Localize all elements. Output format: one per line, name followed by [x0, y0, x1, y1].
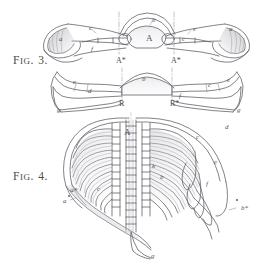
fig4-caption-rest: IG [20, 172, 31, 182]
fig3-caption-number: 3. [38, 54, 48, 66]
fig3-label-a_right: a [229, 26, 233, 33]
fig4-label-g_bottom4: g [151, 253, 155, 260]
fig3b-right-lower-sweep [172, 100, 234, 110]
fig4-caption-lead: F [13, 170, 20, 182]
fig3b-label-Rstar_l: R [119, 100, 124, 108]
fig3-label-b_top: b [152, 17, 156, 24]
fig3b-label-e_left2: e [73, 79, 76, 86]
fig3-label-A_center: A [146, 34, 153, 43]
fig4-label-e_right4: e [214, 159, 217, 166]
fig4-label-astar4: a* [70, 187, 77, 194]
fig3-lower-arch-set [51, 68, 243, 112]
fig4-right-ventral-sweep [216, 182, 228, 216]
fig3-label-e_right: e [193, 26, 196, 33]
fig3-left-process-upper [68, 24, 127, 36]
fig3-label-c_left: c [89, 25, 92, 32]
fig4-caption: FIG. 4. [13, 166, 48, 184]
fig3-label-c_right: c [182, 36, 185, 43]
fig4-label-c_right4: c [196, 134, 199, 141]
fig4-label-a_left4: a [63, 198, 67, 205]
fig4-astar-dot [68, 195, 70, 197]
fig3b-label-e_right2: e [227, 77, 230, 84]
fig4-thorax [64, 112, 239, 259]
fig3-label-Astar_r: A* [171, 57, 181, 65]
fig4-caption-dot: . [30, 170, 33, 182]
fig4-right-process-ladder [142, 123, 150, 216]
fig3-label-f_left: f [91, 46, 93, 53]
fig4-label-bstar4: b* [241, 205, 248, 212]
fig3b-left-ticks [74, 84, 122, 96]
fig3b-label-g_right2: g [237, 107, 241, 114]
fig4-left-process-ladder [112, 123, 120, 216]
fig3-left-process-edge [74, 48, 126, 56]
fig4-left-fan-shade [72, 129, 112, 203]
fig4-label-c_left4: c [97, 186, 100, 193]
fig3b-label-g_left2: g [57, 107, 61, 114]
fig3b-label-Rstar_r: R* [170, 100, 179, 108]
fig3b-label-c_right2: c [208, 82, 211, 89]
fig3b-label-f_right2: f [179, 93, 181, 100]
fig3b-left-lower-sweep [60, 100, 122, 110]
fig4-label-A_top4: A [124, 128, 131, 137]
fig3b-left-line-1 [57, 72, 122, 86]
engraving-plate: FIG. 3. FIG. 4. acfbAecaA*A*edbfceggRR*A… [0, 0, 265, 268]
fig3-caption-dot: . [30, 54, 33, 66]
fig4-label-k_mid4: k [152, 163, 155, 170]
plate-artwork [0, 0, 265, 268]
fig3-right-process-edge [167, 48, 219, 56]
fig4-right-fan-shade [150, 129, 199, 209]
fig4-right-leaders [229, 208, 236, 210]
fig4-caption-number: 4. [38, 170, 48, 182]
fig3-caption-lead: F [13, 54, 20, 66]
fig3-caption: FIG. 3. [13, 50, 48, 68]
fig4-label-b_mid4: b [160, 174, 164, 181]
fig3b-left-lower-sweep-2 [61, 103, 123, 112]
fig3-label-a_left: a [59, 36, 63, 43]
fig3b-label-b_top2: b [142, 76, 146, 83]
fig3b-label-d_left2: d [88, 88, 92, 95]
fig3b-right-lower-sweep-2 [171, 103, 233, 112]
fig4-bstar-dot [236, 199, 238, 201]
fig3-caption-rest: IG [20, 56, 31, 66]
fig4-label-f_right4: f [206, 181, 208, 188]
fig4-label-d_right4: d [225, 124, 229, 131]
fig3-label-Astar_l: A* [116, 57, 126, 65]
